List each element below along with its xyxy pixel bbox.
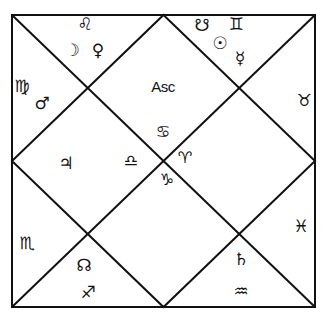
planet-jupiter-icon: ♃	[58, 155, 73, 172]
sign-pisces-icon: ♓	[293, 218, 308, 235]
sign-sagittarius-icon: ♐	[80, 284, 95, 301]
sign-scorpio-icon: ♏	[19, 235, 34, 252]
sign-gemini-icon: ♊	[228, 16, 243, 33]
sign-capricorn-icon: ♑	[160, 172, 174, 188]
planet-rahu-icon: ☊	[76, 257, 91, 274]
planet-venus-icon: ♀	[92, 42, 104, 59]
sign-aquarius-icon: ♒	[233, 283, 248, 300]
planet-ketu-icon: ☋	[194, 17, 209, 34]
north-indian-chart-frame	[0, 0, 326, 318]
sign-cancer-icon: ♋	[156, 124, 170, 140]
sign-aries-icon: ♈	[178, 150, 192, 166]
planet-mercury-icon: ☿	[235, 50, 245, 67]
sign-libra-icon: ♎	[124, 153, 138, 169]
planet-mars-icon: ♂	[34, 95, 49, 112]
ascendant-label: Asc	[151, 79, 175, 94]
planet-saturn-icon: ♄	[233, 251, 248, 268]
sign-leo-icon: ♌	[77, 16, 92, 33]
sign-taurus-icon: ♉	[296, 92, 311, 109]
planet-moon-icon: ☽	[64, 42, 79, 59]
sign-virgo-icon: ♍	[14, 78, 29, 95]
planet-sun-icon: ☉	[212, 35, 227, 52]
